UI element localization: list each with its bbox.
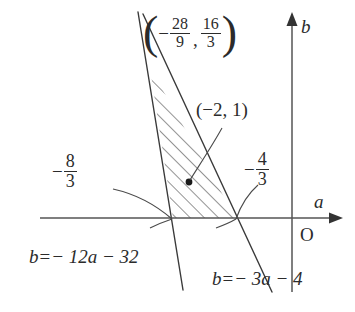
apex-x-numerator: 28: [170, 16, 190, 34]
leader-right-intercept-tail: [216, 219, 236, 228]
up-arrow-icon: [287, 12, 298, 26]
right-intercept-denominator: 3: [256, 170, 269, 189]
apex-x-denominator: 9: [170, 34, 190, 51]
right-intercept-minus: −: [244, 160, 255, 179]
equation-shallow-rhs: − 3a − 4: [234, 269, 302, 288]
left-intercept-minus: −: [52, 162, 63, 181]
axis-label-a: a: [314, 192, 324, 211]
apex-y-denominator: 3: [201, 34, 221, 51]
equation-steep-line: b = − 12a − 32: [29, 247, 139, 266]
left-intercept-label: − 8 3: [52, 152, 78, 190]
equation-steep-equals: =: [39, 247, 52, 266]
apex-x-fraction: 28 9: [170, 16, 190, 50]
equation-steep-lhs: b: [29, 247, 39, 266]
shaded-region: [150, 68, 236, 218]
interior-point-label: (−2, 1): [196, 100, 248, 119]
left-intercept-denominator: 3: [64, 172, 77, 191]
right-arrow-icon: [329, 213, 343, 224]
equation-shallow-lhs: b: [212, 269, 222, 288]
leader-left-intercept: [113, 189, 172, 219]
left-intercept-fraction: 8 3: [64, 152, 77, 190]
leader-right-intercept: [236, 185, 258, 219]
right-intercept-numerator: 4: [256, 150, 269, 170]
equation-shallow-equals: =: [222, 269, 235, 288]
equation-shallow-line: b = − 3a − 4: [212, 269, 303, 288]
apex-minus-x: −: [158, 24, 169, 43]
marked-point: [186, 179, 193, 186]
leader-left-intercept-tail: [150, 219, 172, 228]
right-intercept-fraction: 4 3: [256, 150, 269, 188]
right-intercept-label: − 4 3: [244, 150, 270, 188]
apex-y-fraction: 16 3: [201, 16, 221, 50]
apex-open-paren: (: [143, 13, 158, 52]
apex-y-numerator: 16: [201, 16, 221, 34]
axis-vertical: [287, 12, 298, 292]
apex-separator: ,: [191, 30, 200, 49]
origin-label: O: [300, 225, 314, 244]
apex-coordinate-label: ( − 28 9 , 16 3 ): [143, 14, 237, 53]
left-intercept-numerator: 8: [64, 152, 77, 172]
math-figure: ( − 28 9 , 16 3 ) (−2, 1) − 8 3 −: [0, 0, 355, 312]
apex-close-paren: ): [222, 13, 237, 52]
axis-label-b: b: [301, 17, 311, 36]
equation-steep-rhs: − 12a − 32: [51, 247, 138, 266]
